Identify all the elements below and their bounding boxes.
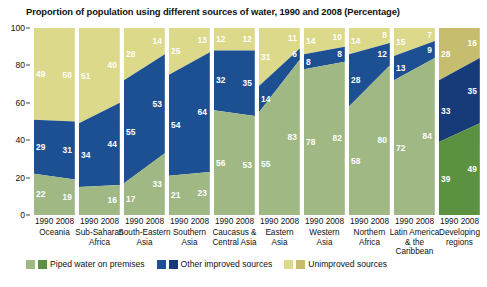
bar-value-label: 82 — [333, 133, 342, 143]
legend-swatch-1990 — [157, 260, 166, 269]
x-year-label: 1990 2008 — [79, 216, 120, 226]
bar-value-label: 12 — [243, 34, 252, 44]
bar-value-label: 14 — [153, 36, 162, 46]
bar-value-label: 13 — [396, 63, 405, 73]
y-tick-label: 60 — [15, 98, 25, 108]
x-year-label: 1990 2008 — [259, 216, 300, 226]
bar-group: 31145511683 — [259, 28, 300, 215]
bar-value-label: 83 — [288, 132, 297, 142]
bar-value-label: 8 — [337, 49, 342, 59]
bar-value-label: 28 — [351, 75, 360, 85]
bar-value-label: 17 — [126, 194, 135, 204]
bar-value-label: 8 — [382, 30, 387, 40]
legend-item[interactable]: Other improved sources — [157, 259, 273, 269]
bar-value-label: 32 — [216, 75, 225, 85]
y-tick-mark — [26, 65, 30, 66]
legend-swatch-2008 — [169, 260, 178, 269]
x-year-label: 1990 2008 — [124, 216, 165, 226]
bar-value-label: 7 — [427, 30, 432, 40]
y-tick-mark — [26, 28, 30, 29]
bar-group: 255421136423 — [169, 28, 210, 215]
y-tick-label: 40 — [15, 135, 25, 145]
legend-item[interactable]: Piped water on premises — [26, 259, 145, 269]
bar-value-label: 40 — [108, 60, 117, 70]
bar-value-label: 14 — [351, 36, 360, 46]
y-tick-mark — [26, 102, 30, 103]
bar-value-label: 80 — [378, 135, 387, 145]
legend-swatch-2008 — [296, 260, 305, 269]
y-tick-mark — [26, 140, 30, 141]
chart-title: Proportion of population using different… — [26, 6, 400, 17]
group-band — [394, 28, 435, 215]
bar-value-label: 51 — [81, 71, 90, 81]
bar-value-label: 19 — [63, 192, 72, 202]
chart-container: Proportion of population using different… — [0, 0, 487, 287]
bar-value-label: 15 — [396, 37, 405, 47]
chart-legend: Piped water on premisesOther improved so… — [26, 259, 394, 269]
bar-value-label: 78 — [306, 137, 315, 147]
bar-value-label: 29 — [36, 142, 45, 152]
y-tick-mark — [26, 215, 30, 216]
legend-label: Other improved sources — [181, 259, 273, 269]
x-year-label: 1990 2008 — [169, 216, 210, 226]
x-year-label: 1990 2008 — [439, 216, 480, 226]
x-year-label: 1990 2008 — [304, 216, 345, 226]
bar-value-label: 54 — [171, 120, 180, 130]
bar-value-label: 12 — [216, 34, 225, 44]
bar-value-label: 9 — [427, 45, 432, 55]
bar-value-label: 21 — [171, 190, 180, 200]
plot-area: 4929225031195134354044162855171453332554… — [32, 28, 482, 215]
bar-value-label: 33 — [153, 179, 162, 189]
bar-value-label: 31 — [261, 52, 270, 62]
bar-value-label: 12 — [378, 49, 387, 59]
x-category-label: Developing regions — [433, 228, 486, 247]
bar-value-label: 6 — [292, 49, 297, 59]
bar-value-label: 22 — [36, 189, 45, 199]
bar-value-label: 84 — [423, 131, 432, 141]
bar-value-label: 56 — [216, 158, 225, 168]
bar-value-label: 34 — [81, 150, 90, 160]
bar-group: 1487810882 — [304, 28, 345, 215]
y-tick-label: 20 — [15, 173, 25, 183]
x-year-label: 1990 2008 — [34, 216, 75, 226]
bar-value-label: 33 — [441, 106, 450, 116]
legend-item[interactable]: Unimproved sources — [284, 259, 387, 269]
bar-value-label: 64 — [198, 107, 207, 117]
group-band — [79, 28, 120, 215]
bar-group: 123256123553 — [214, 28, 255, 215]
bar-value-label: 16 — [468, 38, 477, 48]
x-year-label: 1990 2008 — [349, 216, 390, 226]
bar-value-label: 28 — [126, 49, 135, 59]
bar-value-label: 55 — [261, 159, 270, 169]
bar-value-label: 8 — [306, 57, 311, 67]
x-year-label: 1990 2008 — [394, 216, 435, 226]
y-axis: 020406080100 — [0, 28, 30, 215]
bar-value-label: 16 — [108, 195, 117, 205]
bar-value-label: 53 — [243, 160, 252, 170]
bar-group: 14285881280 — [349, 28, 390, 215]
bar-value-label: 31 — [63, 145, 72, 155]
bar-group: 513435404416 — [79, 28, 120, 215]
group-band — [34, 28, 75, 215]
bar-group: 283339163549 — [439, 28, 480, 215]
bar-value-label: 25 — [171, 46, 180, 56]
legend-swatch-1990 — [26, 260, 35, 269]
bar-value-label: 23 — [198, 188, 207, 198]
bar-group: 492922503119 — [34, 28, 75, 215]
legend-label: Piped water on premises — [50, 259, 145, 269]
y-tick-label: 0 — [20, 210, 25, 220]
bar-value-label: 10 — [333, 32, 342, 42]
bar-value-label: 35 — [243, 78, 252, 88]
x-year-label: 1990 2008 — [214, 216, 255, 226]
bar-value-label: 35 — [468, 86, 477, 96]
bar-value-label: 14 — [306, 36, 315, 46]
bar-value-label: 55 — [126, 127, 135, 137]
y-tick-label: 100 — [11, 23, 25, 33]
bar-value-label: 44 — [108, 139, 117, 149]
bar-value-label: 49 — [36, 69, 45, 79]
x-axis-categories: OceaniaSub-Saharan AfricaSouth-Eastern A… — [26, 228, 487, 254]
legend-label: Unimproved sources — [308, 259, 387, 269]
bar-value-label: 14 — [261, 94, 270, 104]
bar-value-label: 72 — [396, 143, 405, 153]
group-band — [214, 28, 255, 215]
